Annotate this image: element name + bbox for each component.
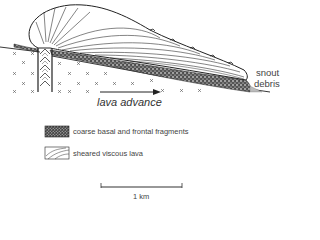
scale-bar [101,183,182,188]
scale-bar-label: 1 km [133,193,149,201]
legend-swatch-sheared [45,147,69,159]
lava-advance-label: lava advance [97,97,162,108]
legend-label-coarse: coarse basal and frontal fragments [73,128,188,136]
feeder-dike [38,48,52,92]
snout-label: snout [256,68,279,78]
lava-advance-arrow [100,89,161,95]
legend-swatch-coarse [45,126,69,137]
legend-label-sheared: sheared viscous lava [73,150,143,158]
debris-label: debris [254,79,280,89]
